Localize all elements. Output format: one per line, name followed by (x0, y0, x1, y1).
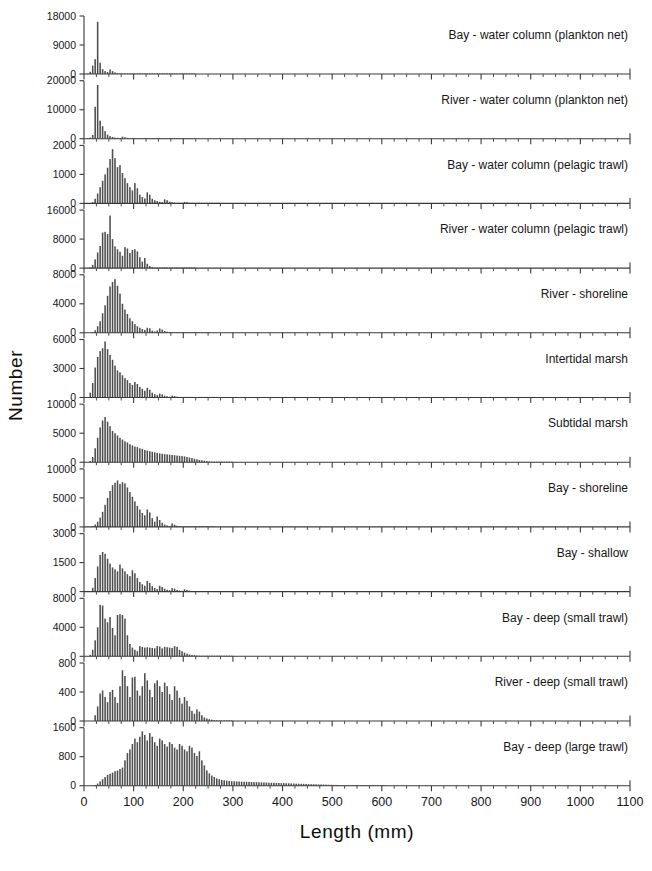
histogram-bars (89, 605, 232, 656)
histogram-bar (159, 454, 161, 463)
histogram-bar (174, 748, 176, 786)
histogram-bar (137, 651, 139, 656)
x-tick-label: 400 (272, 795, 293, 809)
histogram-bar (147, 647, 149, 656)
histogram-bar (149, 583, 151, 592)
histogram-bar (119, 769, 121, 786)
histogram-bar (171, 744, 173, 786)
histogram-bar (117, 370, 119, 397)
panel-4: 0800016000River - water column (pelagic … (47, 204, 630, 274)
histogram-bar (169, 648, 171, 657)
histogram-bar (137, 188, 139, 203)
histogram-bar (199, 751, 201, 785)
y-tick-label: 5000 (53, 427, 77, 439)
histogram-bar (201, 715, 203, 721)
histogram-bar (179, 456, 181, 462)
histogram-bar (94, 448, 96, 462)
panel-9: 015003000Bay - shallow (53, 527, 630, 597)
histogram-bar (127, 635, 129, 656)
histogram-bar (164, 683, 166, 721)
histogram-bar (109, 355, 111, 398)
histogram-bar (119, 484, 121, 527)
panel-6: 030006000Intertidal marsh (53, 333, 630, 403)
histogram-bar (104, 174, 106, 203)
histogram-bar (122, 568, 124, 591)
histogram-bar (132, 190, 134, 203)
histogram-bar (144, 391, 146, 398)
histogram-bar (104, 341, 106, 397)
x-tick-label: 100 (123, 795, 144, 809)
histogram-bar (107, 168, 109, 204)
x-tick-label: 0 (81, 795, 88, 809)
histogram-bars (94, 731, 386, 785)
histogram-bar (142, 513, 144, 527)
histogram-bar (189, 707, 191, 722)
histogram-bar (233, 781, 235, 785)
histogram-bar (117, 703, 119, 721)
histogram-bar (166, 647, 168, 656)
panel-5: 040008000River - shoreline (53, 268, 630, 338)
histogram-bar (129, 576, 131, 591)
histogram-bar (156, 646, 158, 656)
histogram-bar (144, 586, 146, 592)
histogram-bar (117, 571, 119, 591)
histogram-bar (179, 698, 181, 721)
histogram-bar (129, 749, 131, 785)
histogram-bar (107, 135, 109, 139)
x-tick-label: 800 (471, 795, 492, 809)
histogram-bar (189, 746, 191, 786)
histogram-bar (154, 522, 156, 527)
histogram-bar (191, 458, 193, 462)
histogram-bar (171, 455, 173, 462)
histogram-bar (144, 515, 146, 527)
histogram-bar (109, 774, 111, 786)
histogram-bar (137, 384, 139, 398)
panel-label: Bay - deep (small trawl) (502, 611, 628, 625)
y-tick-label: 10000 (47, 463, 76, 475)
histogram-bar (164, 647, 166, 656)
histogram-bar (179, 650, 181, 657)
panel-label: Bay - shoreline (548, 481, 628, 495)
histogram-bar (102, 606, 104, 657)
histogram-bar (124, 247, 126, 268)
histogram-bar (94, 640, 96, 656)
histogram-bar (142, 389, 144, 398)
histogram-bar (176, 456, 178, 463)
y-tick-label: 2000 (53, 139, 77, 151)
histogram-bar (181, 456, 183, 462)
histogram-bar (154, 683, 156, 721)
histogram-bar (94, 259, 96, 268)
histogram-bar (221, 780, 223, 786)
y-tick-label: 400 (58, 686, 76, 698)
histogram-bar (99, 63, 101, 74)
histogram-bar (159, 739, 161, 786)
histogram-bar (102, 552, 104, 592)
histogram-bar (151, 452, 153, 462)
y-tick-label: 1500 (53, 556, 77, 568)
histogram-bar (154, 588, 156, 592)
histogram-bar (122, 173, 124, 203)
histogram-bar (169, 694, 171, 721)
histogram-bar (186, 751, 188, 785)
histogram-bar (102, 779, 104, 786)
histogram-bar (99, 693, 101, 721)
histogram-bar (112, 773, 114, 786)
histogram-bar (124, 619, 126, 657)
histogram-bar (159, 647, 161, 657)
histogram-bar (156, 516, 158, 526)
y-tick-label: 0 (70, 779, 76, 791)
histogram-bar (114, 771, 116, 786)
y-tick-label: 10000 (47, 103, 76, 115)
histogram-bar (171, 700, 173, 721)
histogram-bar (119, 372, 121, 397)
histogram-bar (151, 393, 153, 398)
x-tick-label: 200 (173, 795, 194, 809)
histogram-bar (149, 195, 151, 204)
histogram-bar (107, 559, 109, 592)
histogram-bar (132, 445, 134, 462)
histogram-bar (142, 262, 144, 269)
histogram-bar (189, 458, 191, 463)
histogram-bar (107, 296, 109, 333)
histogram-bar (144, 648, 146, 657)
histogram-bar (169, 455, 171, 463)
